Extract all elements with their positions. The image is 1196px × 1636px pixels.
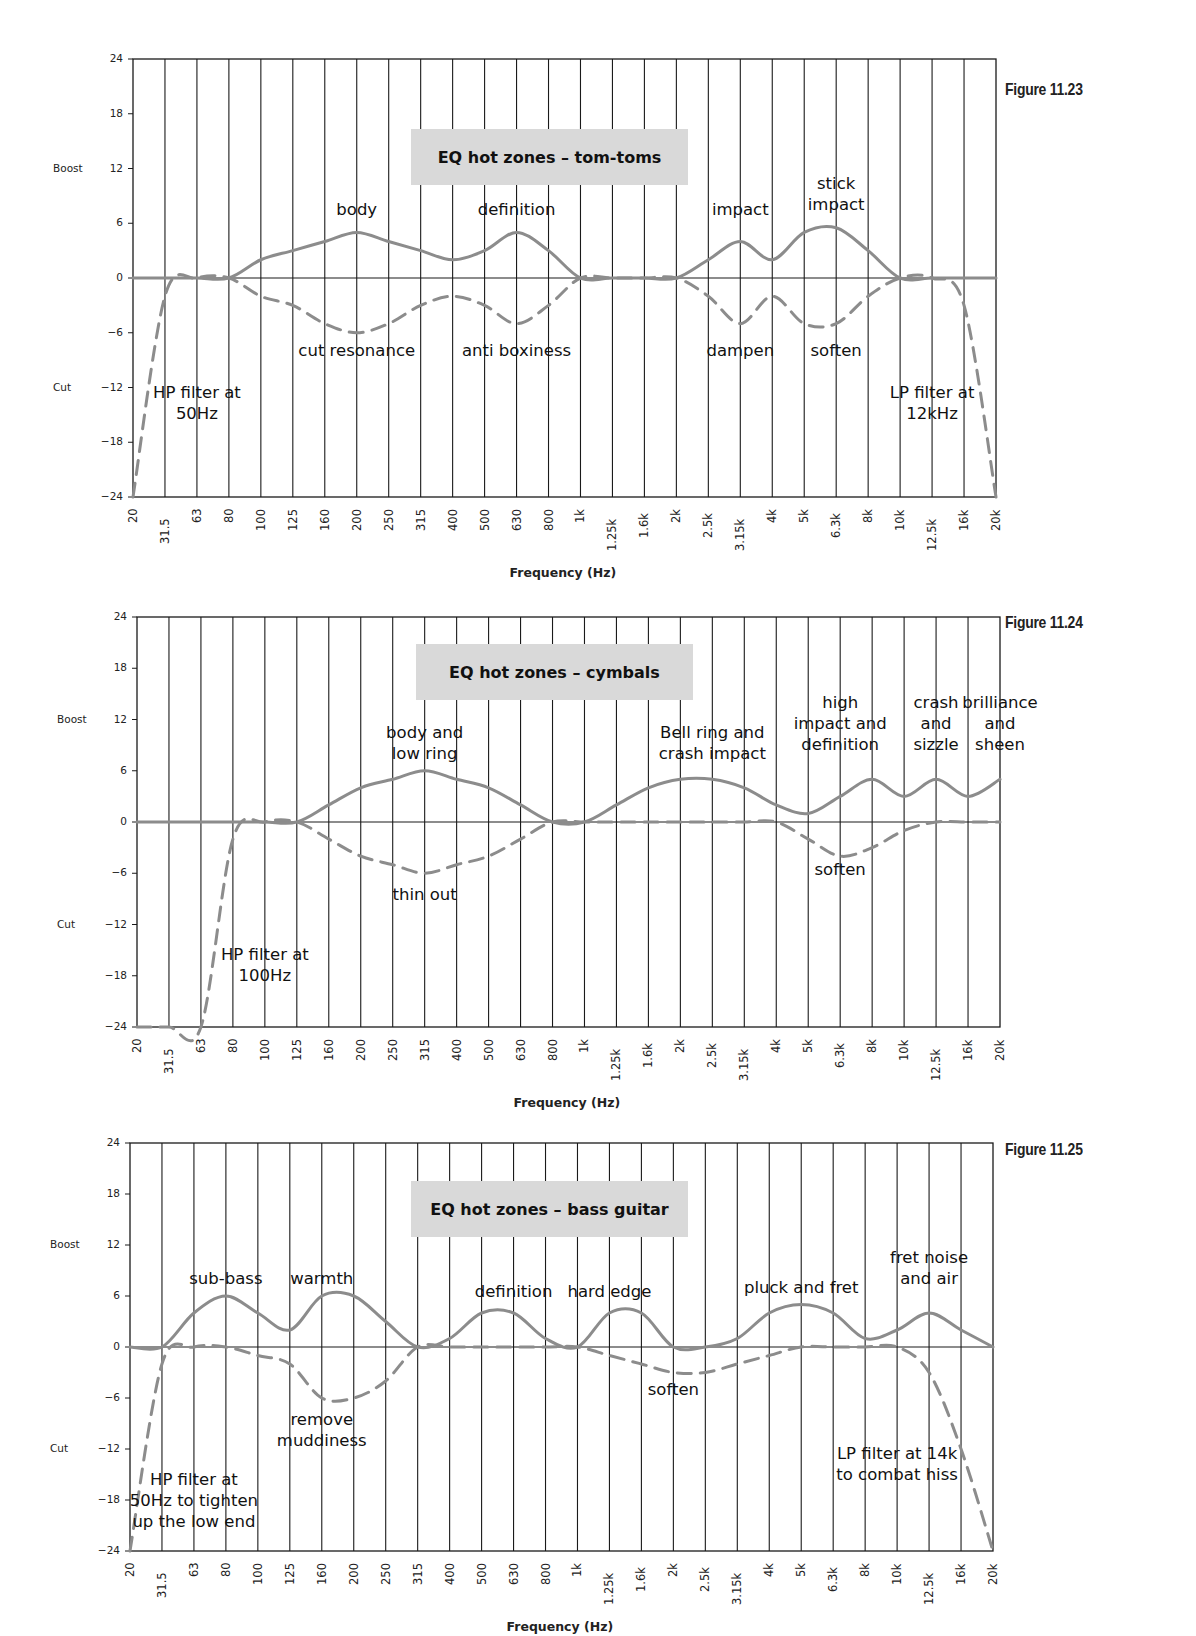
x-tick-label: 250 — [379, 1563, 393, 1585]
x-tick-label: 2.5k — [698, 1567, 712, 1592]
x-tick-label: 1.6k — [634, 1567, 648, 1592]
x-tick-label: 200 — [347, 1563, 361, 1585]
x-tick-label: 80 — [219, 1563, 233, 1578]
annotation: remove muddiness — [277, 1409, 367, 1451]
x-tick-label: 63 — [187, 1563, 201, 1578]
x-tick-label: 400 — [443, 1563, 457, 1585]
annotation: hard edge — [567, 1281, 651, 1302]
x-tick-label: 31.5 — [155, 1572, 169, 1598]
y-tick-label: 12 — [90, 1238, 120, 1250]
y-tick-label: −18 — [90, 1493, 120, 1505]
figure-label: Figure 11.25 — [1005, 1140, 1083, 1160]
x-tick-label: 10k — [890, 1563, 904, 1584]
annotation: HP filter at 50Hz to tighten up the low … — [130, 1469, 258, 1532]
x-tick-label: 125 — [283, 1563, 297, 1585]
annotation: definition — [475, 1281, 553, 1302]
y-tick-label: 0 — [90, 1340, 120, 1352]
x-tick-label: 16k — [954, 1563, 968, 1584]
chart-plot — [0, 0, 1196, 1636]
x-tick-label: 2k — [666, 1563, 680, 1577]
x-tick-label: 315 — [411, 1563, 425, 1585]
x-tick-label: 6.3k — [826, 1567, 840, 1592]
x-tick-label: 160 — [315, 1563, 329, 1585]
x-tick-label: 3.15k — [730, 1573, 744, 1605]
annotation: soften — [648, 1379, 699, 1400]
x-tick-label: 630 — [507, 1563, 521, 1585]
chart-title: EQ hot zones – bass guitar — [411, 1181, 688, 1237]
annotation: LP filter at 14k to combat hiss — [836, 1443, 958, 1485]
boost-label: Boost — [50, 1238, 80, 1250]
y-tick-label: 18 — [90, 1187, 120, 1199]
x-tick-label: 800 — [539, 1563, 553, 1585]
x-tick-label: 8k — [858, 1563, 872, 1577]
x-tick-label: 12.5k — [922, 1573, 936, 1605]
annotation: warmth — [290, 1268, 353, 1289]
x-axis-label: Frequency (Hz) — [507, 1619, 614, 1634]
cut-label: Cut — [50, 1442, 68, 1454]
x-tick-label: 100 — [251, 1563, 265, 1585]
y-tick-label: 6 — [90, 1289, 120, 1301]
y-tick-label: 24 — [90, 1136, 120, 1148]
x-tick-label: 5k — [794, 1563, 808, 1577]
y-tick-label: −12 — [90, 1442, 120, 1454]
annotation: fret noise and air — [890, 1247, 968, 1289]
y-tick-label: −6 — [90, 1391, 120, 1403]
y-tick-label: −24 — [90, 1544, 120, 1556]
x-tick-label: 4k — [762, 1563, 776, 1577]
boost-curve — [130, 1292, 993, 1350]
annotation: pluck and fret — [744, 1277, 859, 1298]
x-tick-label: 1.25k — [602, 1573, 616, 1605]
x-tick-label: 20k — [986, 1563, 1000, 1584]
x-tick-label: 500 — [475, 1563, 489, 1585]
x-tick-label: 1k — [570, 1563, 584, 1577]
x-tick-label: 20 — [123, 1563, 137, 1578]
annotation: sub-bass — [189, 1268, 262, 1289]
